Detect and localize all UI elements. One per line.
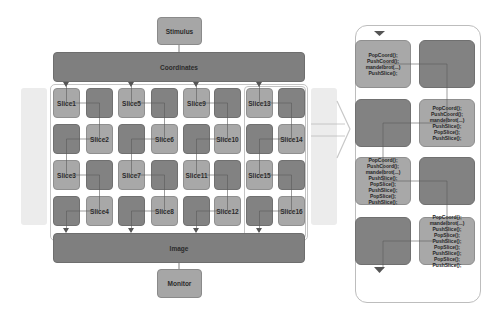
connectors (0, 0, 492, 316)
